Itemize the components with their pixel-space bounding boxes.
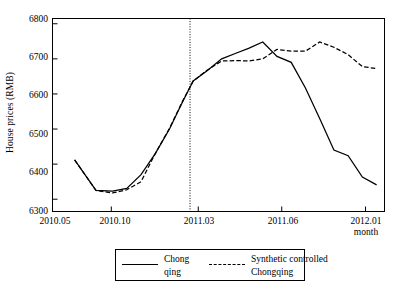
legend-label-synthetic-line1: Synthetic controlled <box>251 254 328 264</box>
x-tick-marks <box>53 207 366 212</box>
chart-legend: Chong qing Synthetic controlled Chongqin… <box>115 249 305 281</box>
legend-label-chongqing-line2: qing <box>164 266 189 279</box>
series-chongqing-line <box>75 42 377 191</box>
legend-label-chongqing-line1: Chong <box>164 254 189 264</box>
house-price-line-chart: House prices (RMB) 6800 6700 6600 6500 6… <box>0 0 409 292</box>
legend-label-synthetic-line2: Chongqing <box>251 266 328 279</box>
dashed-line-swatch-icon <box>209 264 245 265</box>
series-synthetic-chongqing-line <box>75 42 377 193</box>
legend-label-chongqing: Chong qing <box>164 253 189 278</box>
legend-label-synthetic-chongqing: Synthetic controlled Chongqing <box>251 253 328 278</box>
solid-line-swatch-icon <box>122 264 158 265</box>
y-tick-marks <box>53 24 58 199</box>
plot-frame <box>53 19 385 212</box>
